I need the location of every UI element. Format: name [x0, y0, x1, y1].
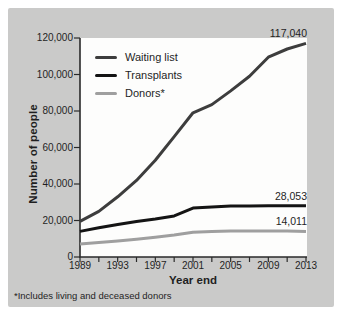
y-tick-label: 80,000: [23, 105, 73, 117]
x-tick-label: 2001: [176, 260, 210, 272]
waiting-list-line-swatch: [95, 56, 117, 59]
y-tick-label: 100,000: [23, 69, 73, 81]
x-tick-label: 1997: [138, 260, 172, 272]
legend-label: Donors*: [125, 87, 165, 99]
legend-item-transplants: Transplants: [95, 66, 182, 84]
legend: Waiting list Transplants Donors*: [95, 48, 182, 102]
y-tick-label: 60,000: [23, 142, 73, 154]
x-tick-label: 1989: [63, 260, 97, 272]
x-tick-label: 1993: [101, 260, 135, 272]
legend-item-waiting-list: Waiting list: [95, 48, 182, 66]
page: { "colors": { "background": "#cacac9", "…: [0, 0, 341, 320]
legend-label: Transplants: [125, 69, 182, 81]
x-tick-label: 2005: [214, 260, 248, 272]
y-axis-title: Number of people: [27, 79, 39, 229]
transplants-line-swatch: [95, 74, 117, 77]
y-tick-label: 40,000: [23, 178, 73, 190]
donors-line-swatch: [95, 92, 117, 95]
legend-label: Waiting list: [125, 51, 178, 63]
x-axis-title: Year end: [128, 274, 258, 286]
data-label-waiting-list: 117,040: [270, 27, 307, 39]
y-tick-label: 120,000: [23, 32, 73, 44]
data-label-transplants: 28,053: [275, 190, 307, 202]
footnote: *Includes living and deceased donors: [14, 290, 171, 301]
y-tick-label: 20,000: [23, 215, 73, 227]
data-label-donors: 14,011: [276, 215, 307, 227]
x-tick-label: 2013: [289, 260, 323, 272]
chart-card: Number of people Waiting list Transplant…: [8, 8, 334, 307]
legend-item-donors: Donors*: [95, 84, 182, 102]
x-tick-label: 2009: [251, 260, 285, 272]
